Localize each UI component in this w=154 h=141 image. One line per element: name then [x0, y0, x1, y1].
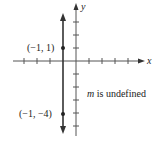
line-top-arrow-icon [60, 13, 66, 21]
point-label: (−1, 1) [27, 42, 54, 54]
coordinate-plane: x y (−1, 1) (−1, −4) m is undefined [0, 0, 154, 141]
point-minus1-minus4: (−1, −4) [19, 108, 65, 120]
slope-annotation: m is undefined [87, 88, 146, 99]
x-axis-label: x [146, 55, 152, 66]
slope-text: is undefined [94, 88, 146, 99]
point-label: (−1, −4) [19, 108, 52, 120]
x-axis: x [13, 55, 152, 66]
y-axis: y [73, 1, 86, 136]
x-axis-arrow-icon [138, 59, 145, 64]
line-bottom-arrow-icon [60, 126, 66, 134]
slope-symbol: m [87, 88, 94, 99]
y-axis-label: y [80, 1, 86, 12]
y-axis-arrow-icon [74, 3, 79, 10]
point-minus1-1: (−1, 1) [27, 42, 65, 54]
